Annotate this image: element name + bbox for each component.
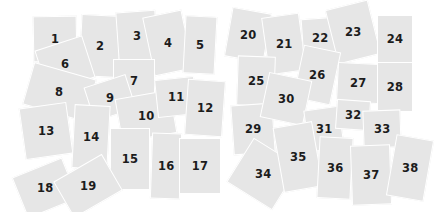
tile-number: 29 [245,122,261,136]
tile-number: 5 [196,38,204,52]
tile-number: 25 [248,74,264,88]
tile-24[interactable]: 24 [377,15,413,63]
tile-number: 28 [387,80,403,94]
tile-number: 34 [255,167,271,181]
tile-number: 37 [363,168,379,182]
tile-36[interactable]: 36 [316,136,353,200]
tile-number: 18 [37,181,53,195]
tile-number: 12 [197,101,213,115]
tile-number: 38 [402,161,418,175]
tile-number: 30 [278,92,294,106]
tile-number: 2 [96,39,104,53]
tile-number: 32 [345,108,361,122]
tile-number: 36 [327,161,343,175]
tile-number: 22 [312,31,328,45]
tile-17[interactable]: 17 [179,138,221,194]
tile-number: 11 [168,90,184,104]
tile-number: 10 [138,109,154,123]
tile-5[interactable]: 5 [183,15,218,75]
tile-number: 9 [106,91,114,105]
tile-number: 35 [290,150,306,164]
tile-number: 23 [345,25,361,39]
tile-37[interactable]: 37 [350,144,392,205]
tile-13[interactable]: 13 [19,102,74,160]
tile-28[interactable]: 28 [377,62,413,112]
tile-number: 27 [350,76,366,90]
tile-number: 16 [158,159,174,173]
tile-number: 24 [387,32,403,46]
tile-number: 31 [316,122,332,136]
tile-board: 1234567891011121314151617181920212223242… [0,0,445,212]
tile-number: 7 [130,74,138,88]
tile-number: 13 [38,124,54,138]
tile-number: 21 [276,37,292,51]
tile-number: 19 [80,179,96,193]
tile-number: 20 [240,28,256,42]
tile-number: 14 [83,130,99,144]
tile-number: 4 [164,36,172,50]
tile-12[interactable]: 12 [184,79,226,138]
tile-number: 17 [192,159,208,173]
tile-16[interactable]: 16 [150,132,182,199]
tile-number: 8 [55,85,63,99]
tile-27[interactable]: 27 [336,62,380,104]
tile-number: 15 [122,152,138,166]
tile-number: 3 [133,29,141,43]
tile-number: 33 [374,122,390,136]
